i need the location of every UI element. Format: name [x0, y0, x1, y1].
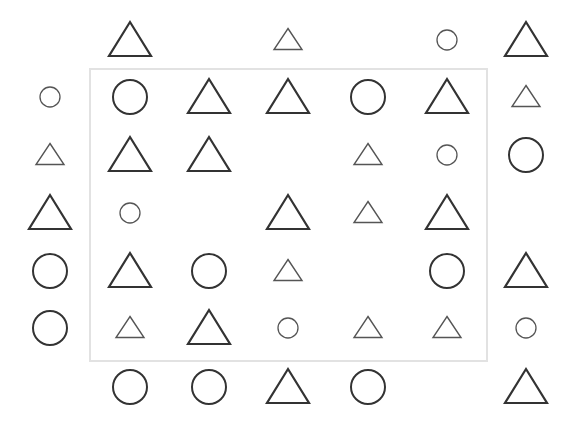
large-triangle-icon [184, 130, 234, 180]
small-triangle-icon [422, 303, 472, 353]
large-triangle-icon [25, 188, 75, 238]
small-triangle-icon [501, 72, 551, 122]
small-triangle-icon [263, 246, 313, 296]
large-circle-icon [343, 72, 393, 122]
small-triangle-icon [343, 303, 393, 353]
large-circle-icon [501, 130, 551, 180]
small-triangle-icon [263, 15, 313, 65]
large-triangle-icon [422, 188, 472, 238]
large-triangle-icon [184, 72, 234, 122]
small-triangle-icon [343, 188, 393, 238]
small-circle-icon [25, 72, 75, 122]
large-triangle-icon [105, 246, 155, 296]
large-triangle-icon [263, 188, 313, 238]
large-circle-icon [184, 246, 234, 296]
large-circle-icon [105, 362, 155, 412]
large-triangle-icon [501, 362, 551, 412]
small-circle-icon [105, 188, 155, 238]
large-circle-icon [25, 303, 75, 353]
large-triangle-icon [184, 303, 234, 353]
small-triangle-icon [343, 130, 393, 180]
small-circle-icon [422, 130, 472, 180]
shape-grid-canvas [0, 0, 576, 432]
large-triangle-icon [263, 362, 313, 412]
large-triangle-icon [105, 15, 155, 65]
small-triangle-icon [105, 303, 155, 353]
large-circle-icon [25, 246, 75, 296]
small-circle-icon [422, 15, 472, 65]
large-circle-icon [422, 246, 472, 296]
large-triangle-icon [422, 72, 472, 122]
large-triangle-icon [501, 246, 551, 296]
large-triangle-icon [263, 72, 313, 122]
small-circle-icon [263, 303, 313, 353]
large-circle-icon [105, 72, 155, 122]
small-circle-icon [501, 303, 551, 353]
large-circle-icon [184, 362, 234, 412]
large-triangle-icon [105, 130, 155, 180]
large-circle-icon [343, 362, 393, 412]
large-triangle-icon [501, 15, 551, 65]
small-triangle-icon [25, 130, 75, 180]
